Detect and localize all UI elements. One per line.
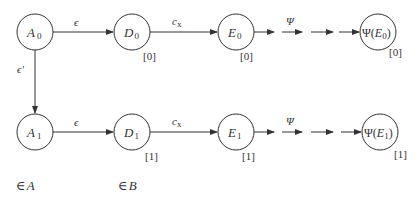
svg-text:Ψ: Ψ [286, 115, 295, 127]
node-psi-e0: Ψ(E0) [0] [360, 14, 402, 58]
node-d1: D1 [1] [114, 114, 158, 162]
node-e1: E1 [1] [218, 114, 255, 162]
svg-text:Ψ(E1): Ψ(E1) [364, 126, 393, 141]
svg-text:Ψ(E0): Ψ(E0) [362, 26, 391, 41]
svg-text:Ψ: Ψ [286, 15, 295, 27]
edge-a0-a1: ϵ′ [17, 50, 35, 113]
edge-e0-psi-e0: Ψ [254, 15, 359, 32]
svg-text:E1: E1 [227, 125, 241, 141]
svg-text:cx: cx [172, 115, 182, 129]
svg-text:cx: cx [172, 15, 182, 29]
edge-d0-e0: cx [150, 15, 217, 32]
svg-text:A1: A1 [26, 125, 41, 141]
edge-e1-psi-e1: Ψ [254, 115, 361, 132]
svg-text:ϵ′: ϵ′ [17, 63, 24, 75]
column-label-b: ∈B [118, 178, 137, 193]
svg-text:[0]: [0] [240, 50, 253, 62]
svg-text:E0: E0 [227, 25, 242, 41]
svg-text:D0: D0 [123, 25, 139, 41]
node-e0: E0 [0] [218, 14, 254, 62]
svg-text:ϵ: ϵ [74, 116, 79, 128]
svg-text:D1: D1 [123, 125, 139, 141]
edge-a1-d1: ϵ [53, 116, 113, 132]
node-psi-e1: Ψ(E1) [1] [362, 114, 407, 160]
svg-text:[1]: [1] [242, 150, 255, 162]
column-label-a: ∈A [16, 178, 35, 193]
svg-text:∈A: ∈A [16, 178, 35, 193]
svg-text:[0]: [0] [143, 50, 156, 62]
node-a0: A0 [17, 14, 53, 50]
node-a1: A1 [17, 114, 53, 150]
svg-text:[0]: [0] [389, 46, 402, 58]
svg-text:[1]: [1] [145, 150, 158, 162]
edge-a0-d0: ϵ [53, 16, 113, 32]
svg-text:∈B: ∈B [118, 178, 137, 193]
diagram-canvas: A0 ϵ D0 [0] cx E0 [0] Ψ Ψ(E0) [0] ϵ′ A1 [0, 0, 420, 206]
svg-text:A0: A0 [26, 25, 42, 41]
node-d0: D0 [0] [114, 14, 156, 62]
edge-d1-e1: cx [150, 115, 217, 132]
svg-text:[1]: [1] [394, 148, 407, 160]
svg-text:ϵ: ϵ [74, 16, 79, 28]
